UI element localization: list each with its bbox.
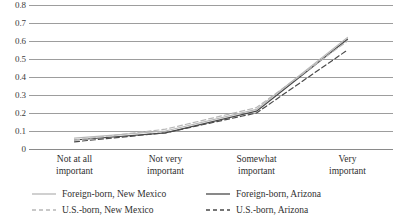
x-category-line1: Somewhat [211, 154, 302, 166]
legend-line-swatch-solid-light [32, 190, 56, 198]
x-category-line1: Not very [120, 154, 211, 166]
x-category-label: Very important [302, 154, 393, 184]
y-tick-label: 0.7 [15, 19, 26, 28]
legend-label: U.S.-born, Arizona [236, 205, 308, 215]
series-line [75, 50, 348, 142]
x-axis-labels: Not at all important Not very important … [29, 154, 393, 184]
legend-label: U.S.-born, New Mexico [62, 205, 154, 215]
y-tick-label: 0.4 [15, 73, 26, 82]
x-category-label: Not at all important [29, 154, 120, 184]
series-lines [29, 0, 393, 152]
y-axis-labels: 0.8 0.7 0.6 0.5 0.4 0.3 0.2 0.1 0 [0, 0, 26, 152]
legend-item-foreign-born-new-mexico: Foreign-born, New Mexico [0, 189, 196, 199]
x-category-line1: Very [302, 154, 393, 166]
y-tick-label: 0.2 [15, 109, 26, 118]
y-tick-label: 0.3 [15, 91, 26, 100]
y-tick-label: 0 [22, 145, 26, 154]
plot-area: 0.8 0.7 0.6 0.5 0.4 0.3 0.2 0.1 0 Not at… [0, 0, 396, 152]
y-tick-label: 0.1 [15, 127, 26, 136]
legend-line-swatch-solid-dark [206, 190, 230, 198]
chart-legend: Foreign-born, New Mexico Foreign-born, A… [0, 186, 396, 218]
x-category-line2: important [211, 166, 302, 178]
legend-item-foreign-born-arizona: Foreign-born, Arizona [196, 189, 396, 199]
grid-area [29, 0, 393, 152]
legend-line-swatch-dashed-light [32, 206, 56, 214]
series-line [75, 39, 348, 140]
legend-line-swatch-dashed-dark [206, 206, 230, 214]
y-tick-label: 0.6 [15, 37, 26, 46]
series-line [75, 41, 348, 140]
legend-item-us-born-arizona: U.S.-born, Arizona [196, 205, 396, 215]
legend-label: Foreign-born, Arizona [236, 189, 321, 199]
x-category-line2: important [29, 166, 120, 178]
legend-label: Foreign-born, New Mexico [62, 189, 166, 199]
x-category-line2: important [120, 166, 211, 178]
line-chart: 0.8 0.7 0.6 0.5 0.4 0.3 0.2 0.1 0 Not at… [0, 0, 396, 220]
x-category-line2: important [302, 166, 393, 178]
y-tick-label: 0.5 [15, 55, 26, 64]
legend-item-us-born-new-mexico: U.S.-born, New Mexico [0, 205, 196, 215]
x-category-line1: Not at all [29, 154, 120, 166]
x-category-label: Not very important [120, 154, 211, 184]
x-category-label: Somewhat important [211, 154, 302, 184]
y-tick-label: 0.8 [15, 1, 26, 10]
